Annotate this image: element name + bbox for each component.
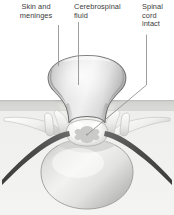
skin-band-left-shading (0, 101, 61, 111)
spinal-cord (66, 120, 107, 147)
vertebral-body-highlight (52, 148, 104, 178)
meningocele-illustration: Skin and meninges Cerebrospinal fluid Sp… (0, 0, 174, 215)
anatomy-drawing (0, 0, 174, 215)
cord-highlight-left (73, 122, 83, 127)
